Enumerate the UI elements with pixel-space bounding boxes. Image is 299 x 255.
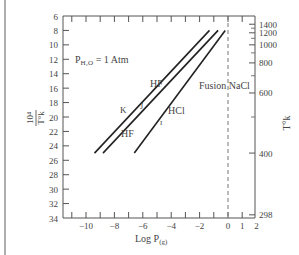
x-tick-label: 1 xyxy=(240,221,245,231)
y-tick-label: 16 xyxy=(49,84,59,94)
y-tick-label: 20 xyxy=(49,113,59,123)
k-label: K xyxy=(120,105,127,115)
y-axis-right-ticks: 140012001000800600400298 xyxy=(249,20,278,221)
x-tick-label: −10 xyxy=(79,221,94,231)
y-tick-label: 28 xyxy=(49,170,59,180)
top-axis-ticks xyxy=(72,16,242,22)
y-tick-label: 26 xyxy=(49,156,59,166)
chart: 6810121416182022242628303234 −10−8−6−4−2… xyxy=(0,0,299,255)
hf-upper-label: HF xyxy=(150,78,163,89)
x-tick-label: −2 xyxy=(195,221,205,231)
curve-i xyxy=(134,30,225,153)
y-tick-label: 10 xyxy=(49,40,59,50)
y-right-tick-label: 600 xyxy=(259,88,273,98)
x-tick-label: 2 xyxy=(254,221,259,231)
curves xyxy=(95,30,226,153)
hcl-label: HCl xyxy=(168,105,185,116)
y-tick-label: 18 xyxy=(49,98,59,108)
y-right-tick-label: 298 xyxy=(259,210,273,220)
j-label: J xyxy=(140,102,143,111)
svg-text:T°k: T°k xyxy=(36,111,46,125)
y-tick-label: 8 xyxy=(54,26,59,36)
y-right-tick-label: 1000 xyxy=(259,40,278,50)
x-axis-label: Log P(g) xyxy=(135,233,168,246)
x-tick-label: −4 xyxy=(166,221,176,231)
x-tick-label: −6 xyxy=(138,221,148,231)
y-tick-label: 12 xyxy=(49,55,58,65)
y-axis-left-ticks: 6810121416182022242628303234 xyxy=(49,12,69,224)
y-right-tick-label: 1200 xyxy=(259,28,278,38)
y-right-tick-label: 800 xyxy=(259,58,273,68)
curve-k xyxy=(95,30,210,153)
y-tick-label: 14 xyxy=(49,69,59,79)
condition-label: PH₂O = 1 Atm xyxy=(75,54,129,67)
plot-frame xyxy=(63,16,255,218)
y-tick-label: 30 xyxy=(49,185,59,195)
fusion-nacl-label: Fusion NaCl xyxy=(199,80,250,91)
y-right-tick-label: 400 xyxy=(259,149,273,159)
y-axis-left-label: 10⁴ T°k xyxy=(25,110,46,126)
y-tick-label: 6 xyxy=(54,12,59,22)
y-tick-label: 22 xyxy=(49,127,58,137)
x-axis-ticks: −10−8−6−4−2012 xyxy=(72,212,259,231)
hf-lower-label: HF xyxy=(121,128,134,139)
svg-text:10⁴: 10⁴ xyxy=(25,112,35,124)
y-tick-label: 32 xyxy=(49,199,58,209)
x-tick-label: 0 xyxy=(226,221,231,231)
y-axis-right-label: T°k xyxy=(281,115,292,130)
y-tick-label: 34 xyxy=(49,214,59,224)
y-tick-label: 24 xyxy=(49,141,59,151)
i-label: I xyxy=(160,119,163,127)
x-tick-label: −8 xyxy=(110,221,120,231)
